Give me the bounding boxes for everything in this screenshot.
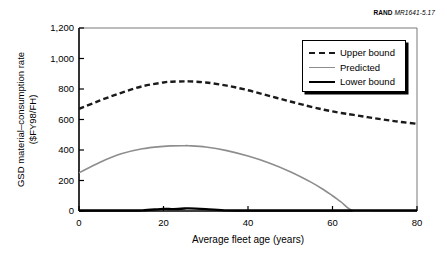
legend-label: Predicted [340, 63, 380, 73]
x-tick-label: 20 [144, 218, 184, 228]
x-axis-title: Average fleet age (years) [79, 234, 417, 246]
dashed-line-sample [309, 48, 335, 58]
gray-line-sample [309, 63, 335, 73]
legend-label: Lower bound [340, 77, 395, 87]
legend-item: Lower bound [309, 75, 403, 89]
legend-item: Upper bound [309, 46, 403, 60]
chart-legend: Upper boundPredictedLower bound [302, 40, 406, 92]
black-line-sample [309, 77, 335, 87]
x-tick-label: 0 [59, 218, 99, 228]
legend-label: Upper bound [340, 48, 395, 58]
x-tick-label: 40 [228, 218, 268, 228]
legend-item: Predicted [309, 61, 403, 75]
x-axis-tick-labels: 020406080 [0, 0, 447, 258]
x-tick-label: 60 [313, 218, 353, 228]
chart-figure: RAND MR1641-5.17 GSD material–consumptio… [0, 0, 447, 258]
x-tick-label: 80 [397, 218, 437, 228]
